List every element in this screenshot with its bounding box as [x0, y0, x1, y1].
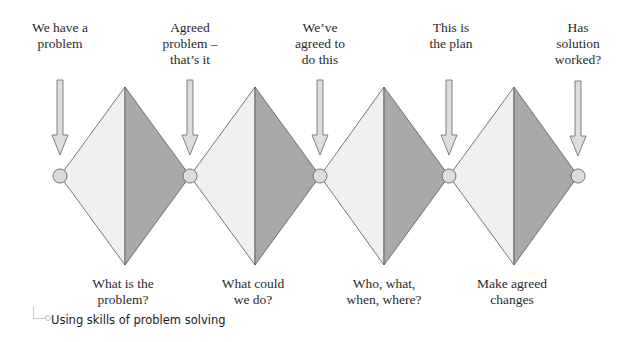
top-label-2-line1: Agreed: [130, 20, 250, 36]
diamond-3: [320, 87, 449, 265]
figure-caption: Using skills of problem solving: [51, 313, 226, 327]
bottom-label-1-line2: problem?: [63, 292, 183, 308]
top-label-3-line3: do this: [260, 52, 380, 68]
top-label-5: Has solution worked?: [518, 20, 633, 68]
node-5: [571, 169, 585, 183]
bottom-label-3-line2: when, where?: [324, 292, 444, 308]
bottom-label-1-line1: What is the: [63, 276, 183, 292]
top-label-4-line1: This is: [391, 20, 511, 36]
top-label-3-line1: We’ve: [260, 20, 380, 36]
top-label-1-line2: problem: [0, 36, 120, 52]
top-label-4: This is the plan: [391, 20, 511, 52]
bottom-label-3: Who, what, when, where?: [324, 276, 444, 308]
top-label-2-line2: problem –: [130, 36, 250, 52]
top-label-1: We have a problem: [0, 20, 120, 52]
bottom-label-3-line1: Who, what,: [324, 276, 444, 292]
top-label-5-line2: solution: [518, 36, 633, 52]
arrow-icon-5: [570, 81, 586, 156]
bottom-label-2-line2: we do?: [193, 292, 313, 308]
bottom-label-4-line2: changes: [452, 292, 572, 308]
arrow-icon-2: [182, 80, 198, 155]
top-label-2-line3: that’s it: [130, 52, 250, 68]
top-label-4-line2: the plan: [391, 36, 511, 52]
top-label-3-line2: agreed to: [260, 36, 380, 52]
bottom-label-2-line1: What could: [193, 276, 313, 292]
top-label-3: We’ve agreed to do this: [260, 20, 380, 68]
arrow-icon-4: [441, 80, 457, 155]
node-2: [183, 169, 197, 183]
node-4: [442, 169, 456, 183]
arrow-icon-1: [52, 80, 68, 155]
top-label-1-line1: We have a: [0, 20, 120, 36]
top-label-2: Agreed problem – that’s it: [130, 20, 250, 68]
arrow-icon-3: [312, 80, 328, 155]
node-1: [53, 169, 67, 183]
node-3: [313, 169, 327, 183]
diamond-4: [449, 87, 578, 265]
top-label-5-line1: Has: [518, 20, 633, 36]
bottom-label-4: Make agreed changes: [452, 276, 572, 308]
bottom-label-1: What is the problem?: [63, 276, 183, 308]
diamond-1: [60, 87, 190, 265]
top-label-5-line3: worked?: [518, 52, 633, 68]
bottom-label-4-line1: Make agreed: [452, 276, 572, 292]
diamond-2: [190, 87, 320, 265]
bottom-label-2: What could we do?: [193, 276, 313, 308]
